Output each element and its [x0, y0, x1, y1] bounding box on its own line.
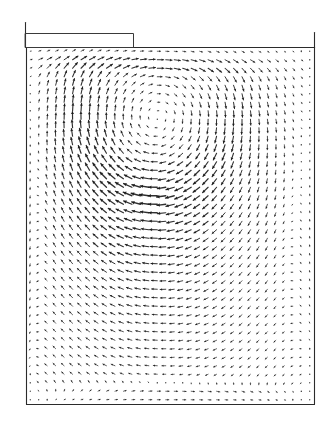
vector-field-figure — [0, 0, 335, 430]
velocity-vector-field-canvas — [0, 0, 335, 430]
